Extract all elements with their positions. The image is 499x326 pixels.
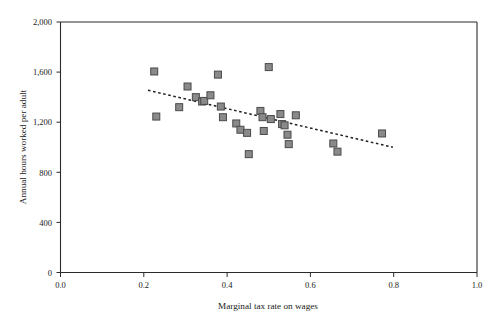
y-tick-label: 800 [39,168,52,178]
y-tick-label: 400 [39,218,52,228]
data-point [151,68,158,75]
plot-frame [61,22,478,273]
data-point [330,140,337,147]
y-tick-label: 1,600 [33,67,52,77]
data-point [267,116,274,123]
data-point [292,112,299,119]
data-point [245,151,252,158]
data-point [207,92,214,99]
data-point [237,126,244,133]
y-axis-ticks [57,22,61,273]
x-tick-label: 0.2 [138,280,149,290]
data-point [153,113,160,120]
data-point [214,71,221,78]
data-point [244,129,251,136]
x-tick-label: 0.6 [305,280,316,290]
data-point [260,127,267,134]
data-point [219,114,226,121]
data-point [281,122,288,129]
data-point [285,141,292,148]
x-axis-tick-labels: 0.0 0.2 0.4 0.6 0.8 1.0 [55,280,482,290]
data-point [284,131,291,138]
x-axis-title: Marginal tax rate on wages [218,301,318,311]
data-point [277,111,284,118]
y-tick-label: 1,200 [33,117,52,127]
data-point [265,64,272,71]
data-point-series [151,64,386,158]
y-axis-tick-labels: 2,000 1,600 1,200 800 400 0 [33,17,52,278]
x-axis-ticks [61,273,478,278]
y-tick-label: 2,000 [33,17,52,27]
data-point [259,114,266,121]
x-tick-label: 0.4 [222,280,233,290]
y-tick-label: 0 [48,268,52,278]
scatter-plot-figure: 2,000 1,600 1,200 800 400 0 0.0 0.2 0.4 … [0,0,499,326]
x-tick-label: 0.0 [55,280,66,290]
data-point [176,104,183,111]
chart-canvas: 2,000 1,600 1,200 800 400 0 0.0 0.2 0.4 … [0,0,499,326]
data-point [217,103,224,110]
data-point [379,130,386,137]
y-axis-title: Annual hours worked per adult [18,89,28,204]
data-point [334,148,341,155]
x-tick-label: 0.8 [388,280,399,290]
x-tick-label: 1.0 [472,280,483,290]
data-point [184,83,191,90]
